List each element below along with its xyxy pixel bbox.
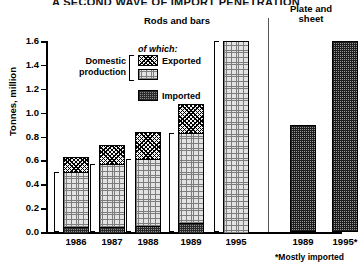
x-axis-label-1988: 1988: [128, 236, 168, 247]
legend-label-exported: Exported: [162, 56, 201, 66]
y-tick-label: 1.4: [26, 59, 39, 70]
x-axis-label-1989: 1989: [171, 236, 211, 247]
x-axis-label-1986: 1986: [56, 236, 96, 247]
bar-segment-imported: [136, 226, 160, 233]
bar-segment-total: [291, 126, 315, 231]
legend-of-which-label: of which:: [138, 44, 178, 54]
bar-segment-domestic: [100, 165, 124, 227]
bar-plate-and-sheet-1989: [290, 125, 316, 232]
bar-segment-imported: [64, 227, 88, 233]
legend-domestic-bracket: [129, 55, 134, 81]
bar-rods-and-bars-1989: [178, 104, 204, 232]
domestic-production-bracket: [214, 41, 219, 232]
y-tick-mark: [41, 137, 47, 139]
bar-segment-domestic: [136, 160, 160, 226]
bar-segment-imported: [100, 227, 124, 233]
chart-footnote: *Mostly imported: [0, 252, 344, 262]
bar-rods-and-bars-1987: [99, 145, 125, 232]
y-tick-label: 0.2: [26, 202, 39, 213]
y-axis-title: Tonnes, million: [7, 42, 18, 162]
y-tick-mark: [41, 41, 47, 43]
y-tick-label: 1.6: [26, 35, 39, 46]
domestic-production-bracket: [90, 164, 95, 232]
panel-title-plate-and-sheet: Plate and sheet: [274, 4, 348, 24]
bar-rods-and-bars-1995: [223, 41, 249, 232]
legend-swatch-imported: [138, 90, 158, 101]
x-axis-label-1995: 1995: [216, 236, 256, 247]
domestic-production-bracket: [169, 133, 174, 232]
legend-domestic-production-label: Domestic production: [60, 56, 126, 77]
bar-rods-and-bars-1988: [135, 132, 161, 232]
bar-segment-total: [333, 42, 357, 231]
y-tick-label: 0.0: [26, 226, 39, 237]
y-tick-mark: [41, 208, 47, 210]
x-axis-label-1995: 1995*: [325, 236, 362, 247]
y-tick-mark: [41, 113, 47, 115]
domestic-production-bracket: [126, 159, 131, 232]
legend-label-imported: Imported: [162, 91, 201, 101]
y-tick-mark: [41, 160, 47, 162]
bar-segment-exported: [179, 105, 203, 134]
y-tick-mark: [41, 89, 47, 91]
bar-segment-exported: [136, 133, 160, 160]
y-tick-mark: [41, 65, 47, 67]
legend-swatch-domestic: [138, 69, 158, 80]
legend-swatch-exported: [138, 55, 158, 66]
bar-segment-exported: [64, 158, 88, 174]
y-tick-mark: [41, 232, 47, 234]
y-tick-mark: [41, 184, 47, 186]
bar-segment-domestic: [179, 134, 203, 224]
y-tick-label: 1.0: [26, 107, 39, 118]
bar-segment-domestic: [64, 173, 88, 227]
x-axis-label-1987: 1987: [92, 236, 132, 247]
bar-segment-imported: [179, 223, 203, 233]
y-tick-label: 0.8: [26, 131, 39, 142]
panel-title-rods-and-bars: Rods and bars: [122, 16, 232, 26]
domestic-production-bracket: [54, 172, 59, 232]
bar-segment-exported: [100, 146, 124, 165]
y-tick-label: 0.6: [26, 154, 39, 165]
bar-segment-domestic: [224, 42, 248, 233]
bar-plate-and-sheet-1995: [332, 41, 358, 232]
bar-rods-and-bars-1986: [63, 157, 89, 232]
x-axis-label-1989: 1989: [283, 236, 323, 247]
y-tick-label: 0.4: [26, 178, 39, 189]
y-tick-label: 1.2: [26, 83, 39, 94]
